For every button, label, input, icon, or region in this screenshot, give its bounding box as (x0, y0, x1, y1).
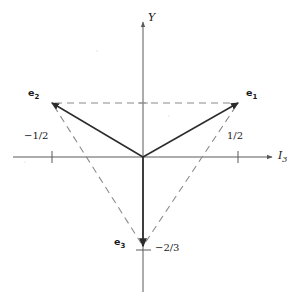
vertical-axis-label: Y (148, 12, 155, 23)
tick-label-neg-two-thirds: −2/3 (155, 243, 179, 253)
horizontal-axis-label: I3 (278, 150, 287, 164)
vector-label-e1: e1 (246, 88, 257, 101)
dashed-edge-e1-e3 (145, 106, 236, 243)
vector-label-e3: e3 (114, 237, 125, 250)
dashed-edge-e2-e3 (54, 106, 141, 243)
tick-label-neg-half: −1/2 (24, 131, 48, 141)
vector-e1-arrow (143, 103, 238, 157)
weight-diagram-figure: Y I3 −1/2 1/2 −2/3 e2 e1 e3 (0, 0, 307, 302)
tick-label-pos-half: 1/2 (227, 131, 243, 141)
diagram-canvas (0, 0, 307, 302)
vector-label-e2: e2 (28, 88, 39, 101)
vector-e2-arrow (52, 103, 143, 157)
